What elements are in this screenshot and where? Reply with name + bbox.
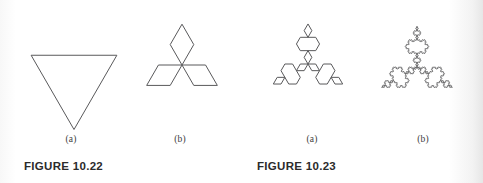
sublabel-10-23-a: (a)	[292, 134, 332, 144]
scan-vignette-left	[0, 0, 16, 183]
sublabel-10-23-b: (b)	[403, 134, 443, 144]
koch-snowflake-iteration-0-triangle	[24, 30, 124, 130]
koch-outline-path	[147, 24, 218, 85]
figure-caption-10-23: FIGURE 10.23	[257, 160, 336, 172]
figure-page: (a) (b) FIGURE 10.22 (a) (b) FIGURE 10.2…	[0, 0, 483, 183]
koch-snowflake-iteration-1-star	[129, 12, 235, 118]
figure-panel-10-22-b	[129, 12, 235, 118]
koch-snowflake-iteration-2	[256, 12, 360, 116]
koch-outline-path	[382, 26, 453, 87]
figure-panel-10-22-a	[24, 30, 124, 130]
sublabel-10-22-b: (b)	[160, 134, 200, 144]
koch-snowflake-iteration-4	[364, 14, 470, 120]
figure-panel-10-23-b	[364, 14, 470, 120]
figure-panel-10-23-a	[256, 12, 360, 116]
sublabel-10-22-a: (a)	[51, 134, 91, 144]
koch-outline-path	[31, 55, 117, 129]
figure-caption-10-22: FIGURE 10.22	[24, 160, 103, 172]
koch-outline-path	[273, 24, 342, 84]
